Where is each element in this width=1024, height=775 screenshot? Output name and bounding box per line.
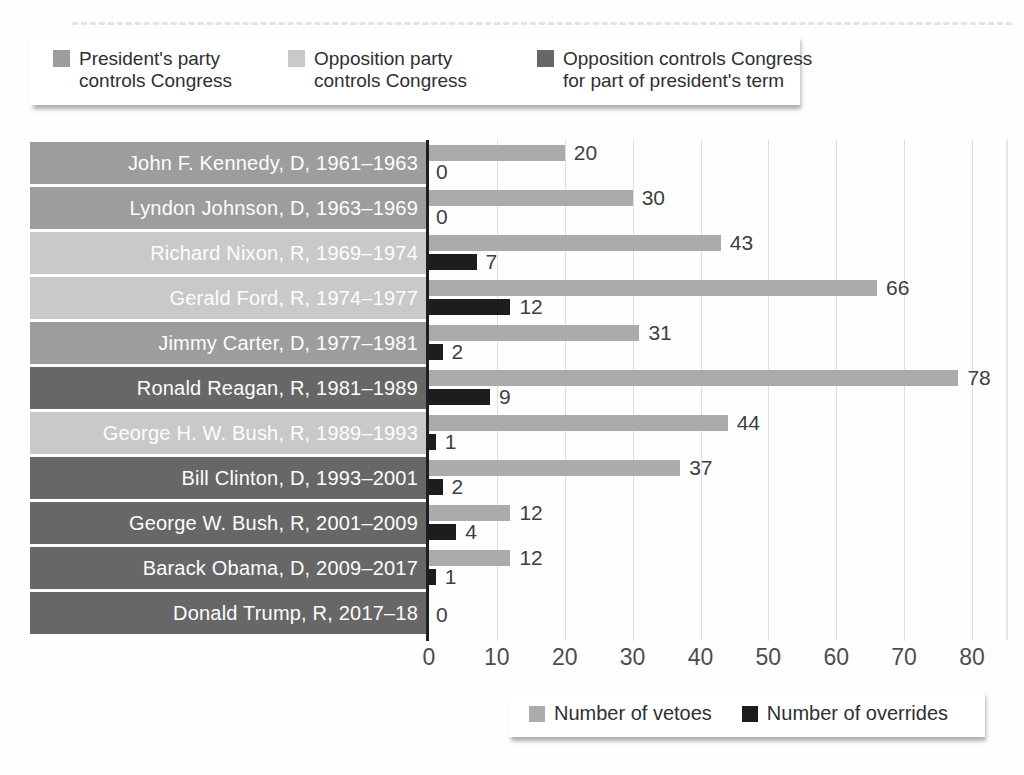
gridline — [836, 140, 837, 641]
override-count-label: 12 — [519, 295, 542, 319]
overrides-bar — [429, 299, 510, 315]
veto-chart-canvas: President's partycontrols Congress Oppos… — [0, 0, 1024, 775]
vetoes-bar — [429, 415, 728, 431]
x-tick-label: 30 — [620, 644, 646, 671]
vetoes-bar — [429, 550, 510, 566]
overrides-bar — [429, 569, 436, 585]
x-tick-label: 60 — [823, 644, 849, 671]
x-tick-label: 10 — [484, 644, 510, 671]
gridline — [701, 140, 702, 641]
scan-artifact-line — [72, 22, 1012, 25]
president-row-label: George H. W. Bush, R, 1989–1993 — [30, 412, 428, 454]
overrides-bar — [429, 434, 436, 450]
veto-count-label: 20 — [574, 141, 597, 165]
override-count-label: 0 — [436, 160, 448, 184]
opposition-party-swatch — [288, 50, 305, 67]
vetoes-legend-label: Number of vetoes — [554, 702, 712, 725]
overrides-bar — [429, 524, 456, 540]
president-row-label: Ronald Reagan, R, 1981–1989 — [30, 367, 428, 409]
override-count-label: 2 — [452, 475, 464, 499]
president-row-label: Bill Clinton, D, 1993–2001 — [30, 457, 428, 499]
veto-count-label: 31 — [648, 321, 671, 345]
president-row-label: George W. Bush, R, 2001–2009 — [30, 502, 428, 544]
veto-count-label: 12 — [519, 546, 542, 570]
veto-count-label: 37 — [689, 456, 712, 480]
veto-count-label: 66 — [886, 276, 909, 300]
vetoes-bar — [429, 145, 565, 161]
series-legend: Number of vetoes Number of overrides — [508, 690, 985, 737]
gridline — [565, 140, 566, 641]
vetoes-bar — [429, 505, 510, 521]
override-count-label: 7 — [486, 250, 498, 274]
veto-count-label: 30 — [642, 186, 665, 210]
vetoes-bar — [429, 325, 639, 341]
legend-line: Opposition party — [314, 48, 452, 69]
vetoes-bar — [429, 370, 958, 386]
congress-control-legend: President's partycontrols Congress Oppos… — [30, 35, 800, 105]
override-count-label: 4 — [465, 520, 477, 544]
gridline — [768, 140, 769, 641]
opposition-partial-swatch — [537, 50, 554, 67]
x-tick-label: 40 — [688, 644, 714, 671]
presidents-party-swatch — [53, 50, 70, 67]
vetoes-bar — [429, 235, 721, 251]
overrides-bar — [429, 254, 477, 270]
veto-count-label: 43 — [730, 231, 753, 255]
legend-line: controls Congress — [79, 70, 232, 91]
veto-count-label: 0 — [436, 603, 448, 627]
gridline — [633, 140, 634, 641]
veto-count-label: 78 — [967, 366, 990, 390]
overrides-bar — [429, 479, 443, 495]
legend-item-vetoes: Number of vetoes — [529, 702, 712, 725]
scan-artifact-edge — [1006, 140, 1008, 640]
president-row-label: John F. Kennedy, D, 1961–1963 — [30, 142, 428, 184]
veto-count-label: 12 — [519, 501, 542, 525]
legend-item-opposition-partial: Opposition controls Congressfor part of … — [537, 48, 812, 92]
x-tick-label: 70 — [891, 644, 917, 671]
override-count-label: 9 — [499, 385, 511, 409]
president-row-label: Richard Nixon, R, 1969–1974 — [30, 232, 428, 274]
x-tick-label: 20 — [552, 644, 578, 671]
president-row-label: Gerald Ford, R, 1974–1977 — [30, 277, 428, 319]
president-row-label: Jimmy Carter, D, 1977–1981 — [30, 322, 428, 364]
vetoes-bar — [429, 460, 680, 476]
overrides-legend-label: Number of overrides — [767, 702, 948, 725]
vetoes-bar — [429, 280, 877, 296]
president-row-label: Lyndon Johnson, D, 1963–1969 — [30, 187, 428, 229]
vetoes-bar — [429, 190, 633, 206]
y-axis-line — [426, 140, 429, 641]
president-row-label: Barack Obama, D, 2009–2017 — [30, 547, 428, 589]
override-count-label: 0 — [436, 205, 448, 229]
legend-item-label: President's partycontrols Congress — [79, 48, 232, 92]
legend-item-label: Opposition partycontrols Congress — [314, 48, 467, 92]
legend-item-label: Opposition controls Congressfor part of … — [563, 48, 812, 92]
legend-line: Opposition controls Congress — [563, 48, 812, 69]
overrides-bar — [429, 344, 443, 360]
legend-item-overrides: Number of overrides — [742, 702, 948, 725]
x-tick-label: 0 — [423, 644, 436, 671]
legend-line: for part of president's term — [563, 70, 784, 91]
legend-line: controls Congress — [314, 70, 467, 91]
x-tick-label: 50 — [756, 644, 782, 671]
override-count-label: 1 — [445, 565, 457, 589]
overrides-bar — [429, 389, 490, 405]
veto-count-label: 44 — [737, 411, 760, 435]
x-tick-label: 80 — [959, 644, 985, 671]
legend-line: President's party — [79, 48, 220, 69]
overrides-swatch — [742, 706, 758, 722]
president-row-label: Donald Trump, R, 2017–18 — [30, 592, 428, 634]
override-count-label: 1 — [445, 430, 457, 454]
gridline — [972, 140, 973, 641]
vetoes-swatch — [529, 706, 545, 722]
legend-item-opposition-party: Opposition partycontrols Congress — [288, 48, 467, 92]
legend-item-presidents-party: President's partycontrols Congress — [53, 48, 232, 92]
override-count-label: 2 — [452, 340, 464, 364]
gridline — [904, 140, 905, 641]
